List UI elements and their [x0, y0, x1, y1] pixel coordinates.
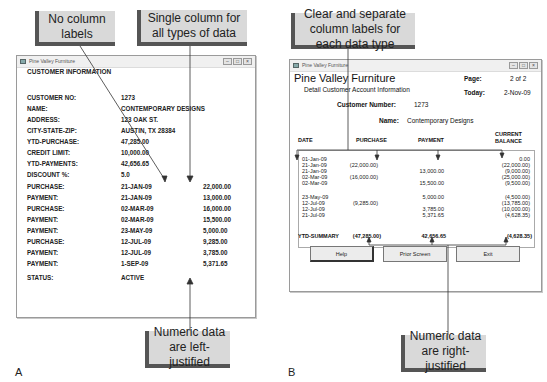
- field-value: 02-MAR-09: [121, 215, 154, 224]
- field-label: PURCHASE:: [27, 237, 64, 246]
- field-value: 21-JAN-09: [121, 182, 152, 191]
- customer-info-row: DISCOUNT %:5.0: [27, 170, 245, 179]
- customer-info-row: ADDRESS:123 OAK ST.: [27, 115, 245, 124]
- panel-label-b: B: [288, 366, 295, 378]
- customer-info-row: CUSTOMER NO:1273: [27, 93, 245, 102]
- field-amount: 15,500.00: [203, 215, 231, 224]
- page-value: 2 of 2: [510, 75, 526, 82]
- field-label: CREDIT LIMIT:: [27, 148, 70, 157]
- field-label: ADDRESS:: [27, 115, 60, 124]
- name-value: Contemporary Designs: [407, 117, 473, 124]
- window-b-title: Pine Valley Furniture: [302, 62, 348, 68]
- field-label: PURCHASE:: [27, 182, 64, 191]
- field-amount: 13,000.00: [203, 193, 231, 202]
- customer-number-label: Customer Number:: [337, 101, 396, 108]
- column-header-current: CURRENT: [495, 131, 522, 137]
- window-a: Pine Valley Furniture – □ × CUSTOMER INF…: [16, 55, 256, 318]
- field-label: PAYMENT:: [27, 215, 58, 224]
- report-subtitle: Detail Customer Account Information: [304, 86, 410, 93]
- field-label: CITY-STATE-ZIP:: [27, 126, 77, 135]
- cell-payment: 5,000.00: [423, 194, 444, 200]
- maximize-button[interactable]: □: [233, 58, 242, 65]
- minimize-button[interactable]: –: [509, 62, 518, 69]
- window-b-titlebar: Pine Valley Furniture – □ ×: [290, 60, 541, 72]
- field-value: 02-MAR-09: [121, 204, 154, 213]
- customer-info-row: YTD-PURCHASE:47,285.00: [27, 137, 245, 146]
- app-icon: [20, 59, 26, 64]
- cell-purchase: (16,000.00): [350, 174, 378, 180]
- field-value: 47,285.00: [121, 137, 149, 146]
- callout-no-column-labels: No column labels: [35, 11, 115, 46]
- field-amount: 9,285.00: [203, 237, 228, 246]
- field-label: PAYMENT:: [27, 259, 58, 268]
- panel-label-a: A: [15, 366, 22, 378]
- field-label: PAYMENT:: [27, 248, 58, 257]
- customer-info-row: PURCHASE:21-JAN-0922,000.00: [27, 182, 245, 191]
- field-value: 5.0: [121, 170, 130, 179]
- field-value: ACTIVE: [121, 273, 144, 282]
- cell-balance: (4,628.35): [505, 212, 530, 218]
- cell-date: 21-Jul-09: [302, 212, 325, 218]
- field-value: 123 OAK ST.: [121, 115, 158, 124]
- window-a-title: Pine Valley Furniture: [29, 58, 75, 64]
- field-value: 10,000.00: [121, 148, 149, 157]
- field-label: DISCOUNT %:: [27, 170, 69, 179]
- close-button[interactable]: ×: [529, 62, 538, 69]
- field-amount: 22,000.00: [203, 182, 231, 191]
- exit-button[interactable]: Exit: [456, 246, 520, 262]
- callout-single-column: Single column for all types of data: [137, 10, 247, 46]
- field-label: NAME:: [27, 104, 48, 113]
- minimize-button[interactable]: –: [223, 58, 232, 65]
- field-amount: 16,000.00: [203, 204, 231, 213]
- callout-left-justified: Numeric data are left-justified: [145, 331, 230, 368]
- field-value: CONTEMPORARY DESIGNS: [121, 104, 205, 113]
- field-amount: 5,371.65: [203, 259, 228, 268]
- prior-screen-button[interactable]: Prior Screen: [383, 246, 447, 262]
- field-label: PAYMENT:: [27, 193, 58, 202]
- customer-info-row: STATUS:ACTIVE: [27, 273, 245, 282]
- field-label: CUSTOMER NO:: [27, 93, 76, 102]
- customer-info-row: PAYMENT:21-JAN-0913,000.00: [27, 193, 245, 202]
- field-amount: 3,785.00: [203, 248, 228, 257]
- callout-clear-labels: Clear and separate column labels for eac…: [291, 13, 415, 49]
- column-header-purchase: PURCHASE: [356, 137, 387, 143]
- column-header-payment: PAYMENT: [418, 137, 444, 143]
- cell-date: 02-Mar-09: [302, 180, 327, 186]
- field-value: 12-JUL-09: [121, 248, 151, 257]
- field-value: 21-JAN-09: [121, 193, 152, 202]
- window-a-titlebar: Pine Valley Furniture – □ ×: [17, 56, 255, 68]
- page-label: Page:: [464, 75, 482, 82]
- field-label: YTD-PAYMENTS:: [27, 159, 78, 168]
- field-label: PURCHASE:: [27, 204, 64, 213]
- field-label: YTD-PURCHASE:: [27, 137, 79, 146]
- cell-purchase: (22,000.00): [350, 162, 378, 168]
- customer-number-value: 1273: [414, 101, 428, 108]
- column-header-balance: BALANCE: [495, 138, 522, 144]
- maximize-button[interactable]: □: [519, 62, 528, 69]
- field-amount: 5,000.00: [203, 226, 228, 235]
- customer-info-row: NAME:CONTEMPORARY DESIGNS: [27, 104, 245, 113]
- customer-info-row: PAYMENT:12-JUL-093,785.00: [27, 248, 245, 257]
- help-button[interactable]: Help: [310, 246, 374, 262]
- field-value: 23-MAY-09: [121, 226, 152, 235]
- window-b: Pine Valley Furniture – □ × Pine Valley …: [289, 59, 542, 292]
- customer-info-row: PURCHASE:12-JUL-099,285.00: [27, 237, 245, 246]
- customer-info-row: CREDIT LIMIT:10,000.00: [27, 148, 245, 157]
- customer-info-row: PAYMENT:23-MAY-095,000.00: [27, 226, 245, 235]
- ytd-summary-payment: 42,656.65: [422, 233, 446, 239]
- customer-info-row: CITY-STATE-ZIP:AUSTIN, TX 28384: [27, 126, 245, 135]
- cell-payment: 5,371.65: [423, 212, 444, 218]
- today-label: Today:: [464, 89, 485, 96]
- cell-payment: 13,000.00: [420, 168, 444, 174]
- today-value: 2-Nov-09: [504, 89, 531, 96]
- close-button[interactable]: ×: [243, 58, 252, 65]
- customer-info-row: PAYMENT:1-SEP-095,371.65: [27, 259, 245, 268]
- field-value: AUSTIN, TX 28384: [121, 126, 175, 135]
- customer-info-row: PURCHASE:02-MAR-0916,000.00: [27, 204, 245, 213]
- field-value: 1273: [121, 93, 135, 102]
- ytd-summary-label: YTD-SUMMARY: [298, 233, 339, 239]
- app-icon: [293, 63, 299, 68]
- customer-information-heading: CUSTOMER INFORMATION: [27, 68, 111, 75]
- cell-payment: 15,500.00: [420, 180, 444, 186]
- cell-purchase: (9,285.00): [353, 200, 378, 206]
